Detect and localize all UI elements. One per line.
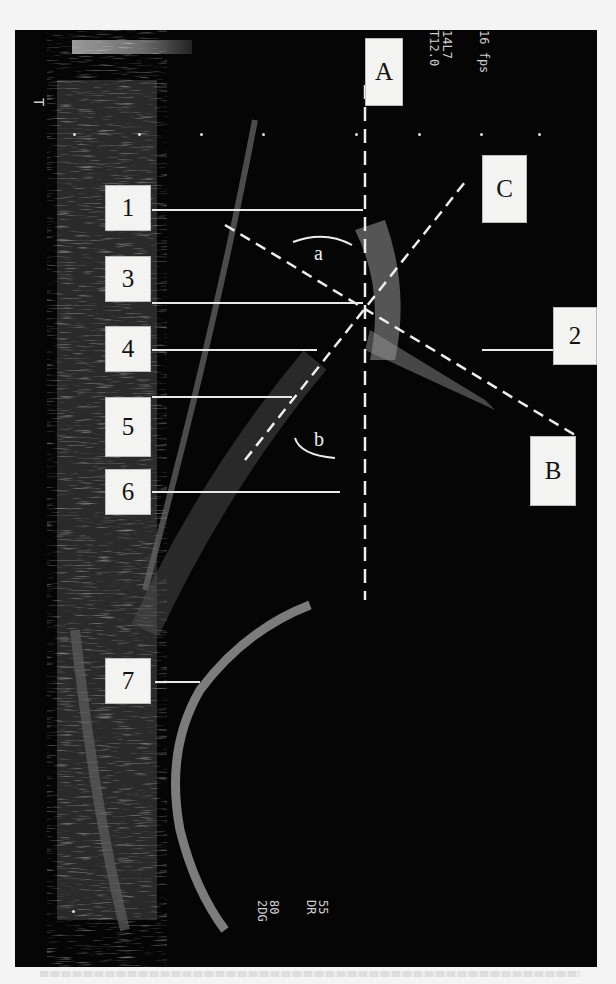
svg-text:b: b xyxy=(314,428,324,450)
bleed-through-text xyxy=(40,971,580,977)
label-2: 2 xyxy=(553,307,597,365)
leader-7 xyxy=(155,681,200,683)
label-1: 1 xyxy=(105,185,151,231)
label-3: 3 xyxy=(105,256,151,302)
leader-5 xyxy=(152,396,292,398)
leader-3 xyxy=(152,302,363,304)
label-5: 5 xyxy=(105,397,151,457)
leader-4 xyxy=(152,349,317,351)
label-6: 6 xyxy=(105,469,151,515)
label-A: A xyxy=(365,38,403,106)
svg-text:a: a xyxy=(314,242,323,264)
leader-2 xyxy=(482,349,554,351)
label-C: C xyxy=(482,155,527,223)
leader-1 xyxy=(152,209,363,211)
label-7: 7 xyxy=(105,658,151,704)
label-B: B xyxy=(530,436,576,506)
label-4: 4 xyxy=(105,326,151,372)
leader-6 xyxy=(152,491,340,493)
